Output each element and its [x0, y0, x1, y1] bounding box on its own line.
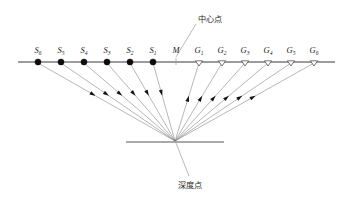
- diagram-canvas: S6S5S4S3S2S1G1G2G3G4G5G6 中心点 深度点 M: [0, 0, 349, 205]
- ray-receiver-g5: [175, 63, 291, 141]
- source-marker-s2: [127, 59, 133, 65]
- receiver-label-g4: G4: [264, 45, 273, 56]
- ray-source-s1-arrowhead: [159, 89, 164, 96]
- ray-source-s2-arrowhead: [144, 90, 150, 97]
- ray-receiver-g2-arrowhead: [198, 95, 204, 102]
- source-marker-s4: [81, 59, 87, 65]
- source-label-s4: S4: [80, 45, 87, 56]
- ray-source-s1: [153, 63, 175, 141]
- ray-receiver-g6-arrowhead: [249, 94, 256, 100]
- receiver-label-g3: G3: [241, 45, 250, 56]
- ray-receiver-g3: [175, 63, 245, 141]
- ray-source-s2: [130, 63, 175, 141]
- ray-source-s6: [38, 63, 175, 141]
- ray-source-s4: [84, 63, 175, 141]
- ray-receiver-g5-arrowhead: [236, 94, 243, 101]
- source-marker-s5: [58, 59, 64, 65]
- ray-source-s5-arrowhead: [103, 91, 110, 98]
- ray-source-s3: [107, 63, 175, 141]
- cmp-geometry-diagram: S6S5S4S3S2S1G1G2G3G4G5G6 中心点 深度点 M: [0, 0, 349, 205]
- receiver-label-g5: G5: [287, 45, 296, 56]
- ray-receiver-g2: [175, 63, 222, 141]
- source-label-s5: S5: [57, 45, 64, 56]
- source-label-s6: S6: [34, 45, 41, 56]
- ray-receiver-g6: [175, 63, 314, 141]
- ray-receiver-g1-arrowhead: [185, 95, 190, 102]
- ray-source-s5: [61, 63, 175, 141]
- depth-point-label: 深度点: [178, 180, 202, 190]
- receiver-marker-g2: [218, 61, 225, 66]
- receiver-marker-g1: [195, 61, 202, 66]
- receiver-marker-g3: [241, 61, 248, 66]
- receiver-label-g2: G2: [218, 45, 227, 56]
- source-marker-s6: [35, 59, 41, 65]
- source-label-s1: S1: [149, 45, 156, 56]
- ray-source-s6-arrowhead: [89, 91, 96, 97]
- raypath-group: [38, 63, 314, 141]
- source-marker-s3: [104, 59, 110, 65]
- source-label-s3: S3: [103, 45, 110, 56]
- receiver-label-g6: G6: [310, 45, 319, 56]
- midpoint-label-m: M: [171, 45, 180, 55]
- depth-point-leader-line: [176, 143, 189, 176]
- source-label-s2: S2: [126, 45, 133, 56]
- center-point-label: 中心点: [198, 14, 222, 24]
- source-marker-s1: [150, 59, 156, 65]
- receiver-label-g1: G1: [195, 45, 204, 56]
- receiver-marker-g6: [310, 61, 317, 66]
- receiver-marker-g5: [287, 61, 294, 66]
